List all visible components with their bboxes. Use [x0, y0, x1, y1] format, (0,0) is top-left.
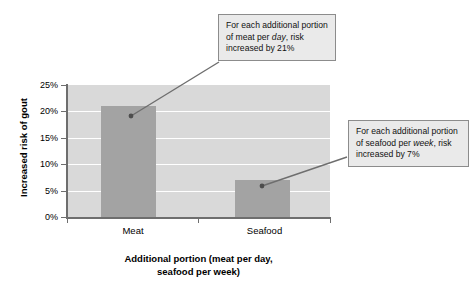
- bar-seafood: [235, 180, 290, 217]
- annotation-callout-seafood: For each additional portion of seafood p…: [348, 120, 469, 167]
- x-tick-right: [330, 217, 331, 223]
- y-tick-label-0: 0%: [45, 212, 58, 222]
- plot-area: [67, 85, 330, 217]
- x-axis-title-line2: seafood per week): [157, 266, 240, 277]
- y-tick-25: [61, 85, 67, 86]
- bar-meat: [101, 106, 156, 217]
- x-tick-mid: [198, 217, 199, 223]
- x-axis-title: Additional portion (meat per day, seafoo…: [67, 252, 330, 278]
- y-tick-label-group: 25% 20% 15% 10% 5% 0%: [0, 0, 58, 292]
- y-tick-label-25: 25%: [40, 80, 58, 90]
- y-axis-line: [66, 84, 68, 218]
- y-tick-label-20: 20%: [40, 106, 58, 116]
- x-tick-left: [67, 217, 68, 223]
- callout-meat-emphasis: day: [272, 32, 286, 42]
- x-axis-title-line1: Additional portion (meat per day,: [124, 253, 272, 264]
- y-tick-label-10: 10%: [40, 159, 58, 169]
- y-tick-label-15: 15%: [40, 133, 58, 143]
- x-tick-label-seafood: Seafood: [199, 225, 330, 236]
- chart-figure: 25% 20% 15% 10% 5% 0% Meat Seafood Incre…: [0, 0, 474, 292]
- annotation-callout-meat: For each additional portion of meat per …: [218, 14, 336, 61]
- y-tick-label-5: 5%: [45, 186, 58, 196]
- y-axis-title: Increased risk of gout: [18, 78, 29, 218]
- y-tick-20: [61, 111, 67, 112]
- callout-seafood-emphasis: week: [413, 138, 433, 148]
- y-tick-5: [61, 191, 67, 192]
- y-tick-10: [61, 164, 67, 165]
- x-tick-label-meat: Meat: [68, 225, 198, 236]
- y-tick-15: [61, 138, 67, 139]
